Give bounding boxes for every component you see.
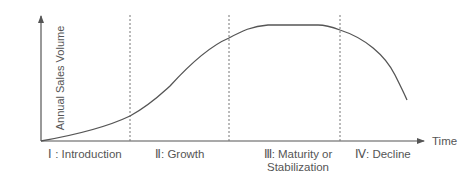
stage-maturity-label-line2: Stabilization xyxy=(248,161,348,174)
x-axis-label: Time xyxy=(432,135,457,148)
sales-curve xyxy=(41,25,407,141)
stage-growth-label: Ⅱ: Growth xyxy=(155,148,204,161)
stage-decline-label: Ⅳ: Decline xyxy=(355,148,411,161)
stage-maturity-label: Ⅲ: Maturity or Stabilization xyxy=(248,148,348,174)
stage-maturity-label-line1: Ⅲ: Maturity or xyxy=(248,148,348,161)
y-axis-label: Annual Sales Volume xyxy=(54,26,66,131)
stage-introduction-label: Ⅰ : Introduction xyxy=(48,148,122,161)
